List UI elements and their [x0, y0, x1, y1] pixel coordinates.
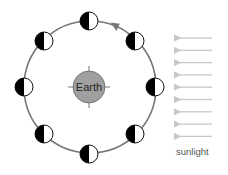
sunlight-label: sunlight	[176, 146, 209, 157]
moon-left	[15, 78, 33, 96]
orbit-direction-arrow-icon	[111, 22, 121, 32]
sunlight-arrows	[180, 38, 212, 136]
moon-bottom-left	[35, 125, 53, 143]
moon-right	[146, 78, 164, 96]
moon-top-left	[35, 32, 53, 50]
earth: Earth	[68, 66, 110, 108]
moon-top	[80, 12, 98, 30]
earth-label: Earth	[76, 81, 102, 93]
moon-bottom	[80, 145, 98, 163]
moon-bottom-right	[126, 125, 144, 143]
moon-phases-diagram: Earth sunlight	[0, 0, 228, 175]
moon-top-right	[126, 32, 144, 50]
